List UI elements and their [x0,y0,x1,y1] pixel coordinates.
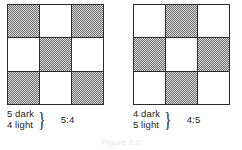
grid-right-cell-r3c1 [134,72,165,104]
grid-right-cell-r2c1 [134,38,165,70]
grid-left-cell-r2c2 [40,38,71,70]
grid-right-cell-r2c2 [166,38,197,70]
caption-left-light-count: 4 light [7,119,34,130]
caption-right-dark-count: 4 dark [133,108,160,119]
caption-right-light-count: 5 light [133,119,160,130]
caption-left-counts: 5 dark 4 light [7,108,34,130]
grid-left-cell-r1c3 [72,5,103,37]
grid-left-cell-r2c3 [72,38,103,70]
grid-right-cell-r1c3 [198,5,229,37]
caption-left-dark-count: 5 dark [7,108,34,119]
grid-left-cell-r2c1 [8,38,39,70]
caption-right-brace: } [164,109,171,129]
grid-right [133,4,230,105]
caption-left-brace: } [38,109,45,129]
grid-left-cell-r1c2 [40,5,71,37]
caption-right-counts: 4 dark 5 light [133,108,160,130]
checkerboard-ratio-figure: 5 dark 4 light } 5:4 4 dark 5 light } 4:… [0,0,242,150]
grid-left-cell-r3c3 [72,72,103,104]
caption-left-ratio: 5:4 [61,114,75,125]
grid-right-cell-r3c3 [198,72,229,104]
grid-left-cell-r1c1 [8,5,39,37]
figure-bottom-caption: Figure 2.2 [0,138,242,150]
caption-left: 5 dark 4 light } 5:4 [7,108,74,130]
grid-left-cell-r3c1 [8,72,39,104]
grid-right-cell-r1c1 [134,5,165,37]
grid-right-cell-r3c2 [166,72,197,104]
caption-right: 4 dark 5 light } 4:5 [133,108,200,130]
grid-right-cell-r2c3 [198,38,229,70]
grid-right-cell-r1c2 [166,5,197,37]
caption-right-ratio: 4:5 [187,114,201,125]
grid-left-cell-r3c2 [40,72,71,104]
grid-left [7,4,104,105]
